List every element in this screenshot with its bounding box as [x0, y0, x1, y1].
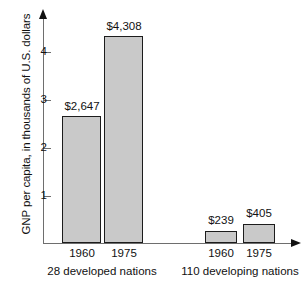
- x-tick-label-developed-1975: 1975: [96, 247, 152, 259]
- bar-value-developed-1975: $4,308: [94, 20, 154, 32]
- x-axis-line: [43, 243, 292, 244]
- x-axis-arrow-icon: [291, 239, 301, 247]
- y-tick-label-4: 4: [27, 45, 47, 57]
- x-tick-label-developing-1975: 1975: [232, 247, 286, 259]
- bar-developing-1960: [205, 231, 237, 243]
- bar-developed-1960: [62, 116, 101, 243]
- y-axis-title: GNP per capita, in thousands of U.S. dol…: [20, 4, 32, 244]
- group-caption-developing: 110 developing nations: [158, 265, 305, 277]
- y-axis-arrow-icon: [39, 9, 47, 19]
- bar-chart: GNP per capita, in thousands of U.S. dol…: [0, 0, 305, 285]
- bar-developed-1975: [104, 36, 143, 243]
- y-tick-label-2: 2: [27, 141, 47, 153]
- bar-value-developed-1960: $2,647: [52, 100, 112, 112]
- bar-developing-1975: [243, 224, 275, 243]
- bar-value-developing-1975: $405: [232, 207, 286, 219]
- y-tick-label-1: 1: [27, 189, 47, 201]
- y-tick-label-3: 3: [27, 93, 47, 105]
